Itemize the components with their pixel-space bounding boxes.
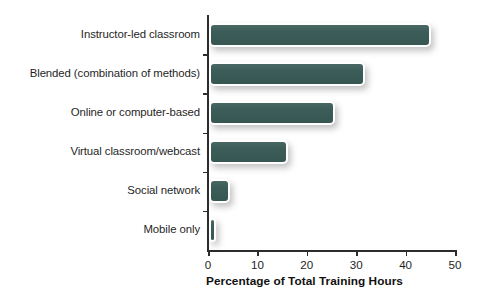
x-axis-tick (406, 250, 408, 256)
bar[interactable] (209, 140, 288, 164)
bar-chart-figure: Percentage of Total Training Hours Instr… (0, 0, 481, 297)
bar-row (208, 172, 455, 211)
x-axis-tick (208, 250, 210, 256)
category-label: Mobile only (0, 223, 200, 235)
bar-fill (209, 101, 335, 125)
bar-row (208, 211, 455, 250)
x-axis-tick (455, 250, 457, 256)
plot-area (208, 15, 455, 250)
bar-fill (209, 62, 365, 86)
bar-row (208, 15, 455, 54)
category-label: Social network (0, 184, 200, 196)
bar-row (208, 133, 455, 172)
x-axis-tick-label: 20 (287, 258, 327, 271)
bar-fill (209, 23, 431, 47)
category-label: Online or computer-based (0, 106, 200, 118)
x-axis-tick-label: 30 (336, 258, 376, 271)
x-axis-tick-label: 40 (386, 258, 426, 271)
x-axis-tick (257, 250, 259, 256)
bar[interactable] (209, 101, 335, 125)
bar[interactable] (209, 218, 216, 242)
bar[interactable] (209, 23, 431, 47)
x-axis-tick (307, 250, 309, 256)
y-axis-tick (203, 93, 209, 95)
bar-fill (209, 140, 288, 164)
x-axis-tick (356, 250, 358, 256)
category-label: Blended (combination of methods) (0, 67, 200, 79)
bar-fill (209, 218, 216, 242)
y-axis-tick (203, 133, 209, 135)
y-axis-tick (203, 211, 209, 213)
bar-row (208, 54, 455, 93)
bar[interactable] (209, 62, 365, 86)
bar-row (208, 93, 455, 132)
bar[interactable] (209, 179, 230, 203)
x-axis-tick-label: 10 (237, 258, 277, 271)
y-axis-tick (203, 172, 209, 174)
category-label: Virtual classroom/webcast (0, 145, 200, 157)
x-axis-title: Percentage of Total Training Hours (0, 274, 481, 288)
x-axis-tick-label: 0 (188, 258, 228, 271)
x-axis-tick-label: 50 (435, 258, 475, 271)
bar-fill (209, 179, 230, 203)
category-label: Instructor-led classroom (0, 28, 200, 40)
x-axis-spine (207, 250, 456, 252)
y-axis-tick (203, 54, 209, 56)
